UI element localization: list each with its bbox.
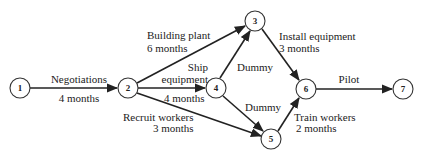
node-4: 4	[206, 78, 226, 98]
label-negotiations: Negotiations	[51, 73, 107, 85]
label-dummy-4-5: Dummy	[245, 101, 282, 113]
node-2: 2	[118, 78, 138, 98]
label-building-plant-duration: 6 months	[147, 42, 188, 54]
node-6: 6	[296, 79, 316, 99]
node-7: 7	[393, 79, 413, 99]
node-5-label: 5	[269, 134, 274, 144]
label-ship-duration: 4 months	[164, 92, 205, 104]
label-train-duration: 2 months	[296, 122, 337, 134]
label-ship-equipment: equipment	[162, 73, 208, 85]
node-5: 5	[261, 129, 281, 149]
label-install-duration: 3 months	[279, 42, 320, 54]
node-1: 1	[10, 78, 30, 98]
activity-network-diagram: 1 2 3 4 5 6 7 Negotiations 4 months Buil…	[0, 0, 431, 159]
node-2-label: 2	[126, 83, 131, 93]
label-recruit-duration: 3 months	[153, 122, 194, 134]
label-ship: Ship	[188, 61, 209, 73]
node-3: 3	[245, 11, 265, 31]
label-pilot: Pilot	[339, 73, 360, 85]
node-6-label: 6	[304, 84, 309, 94]
label-install-equipment: Install equipment	[279, 30, 356, 42]
label-building-plant: Building plant	[147, 29, 210, 41]
label-dummy-4-3: Dummy	[237, 61, 274, 73]
node-1-label: 1	[18, 83, 23, 93]
label-negotiations-duration: 4 months	[59, 92, 100, 104]
node-3-label: 3	[253, 16, 258, 26]
node-4-label: 4	[214, 83, 219, 93]
node-7-label: 7	[401, 84, 406, 94]
